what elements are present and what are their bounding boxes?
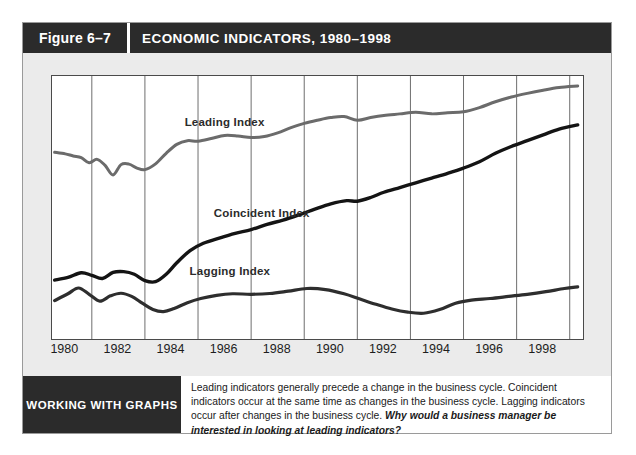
working-with-graphs-tag: WORKING WITH GRAPHS bbox=[23, 376, 181, 433]
series-line-leading-index bbox=[55, 86, 578, 175]
plot-frame: Leading Index Coincident Index Lagging I… bbox=[51, 75, 584, 340]
chart-region: Leading Index Coincident Index Lagging I… bbox=[23, 53, 613, 378]
series-line-coincident-index bbox=[55, 125, 578, 282]
caption-paragraph: Leading indicators generally precede a c… bbox=[191, 381, 601, 438]
series-label-leading-index: Leading Index bbox=[185, 116, 265, 128]
x-tick-label-1996: 1996 bbox=[475, 342, 503, 356]
x-tick-label-1988: 1988 bbox=[263, 342, 291, 356]
x-tick-label-1994: 1994 bbox=[422, 342, 450, 356]
x-tick-label-1998: 1998 bbox=[528, 342, 556, 356]
x-axis-tick-labels: 1980198219841986198819901992199419961998 bbox=[51, 342, 584, 366]
series-label-lagging-index: Lagging Index bbox=[190, 265, 271, 277]
caption-block: Leading indicators generally precede a c… bbox=[181, 376, 611, 433]
figure-header: Figure 6–7 ECONOMIC INDICATORS, 1980–199… bbox=[23, 23, 611, 53]
figure-number-label: Figure 6–7 bbox=[23, 23, 127, 53]
x-tick-label-1980: 1980 bbox=[50, 342, 78, 356]
figure-panel: Figure 6–7 ECONOMIC INDICATORS, 1980–199… bbox=[22, 22, 612, 434]
line-chart-plot bbox=[52, 76, 583, 339]
x-tick-label-1986: 1986 bbox=[210, 342, 238, 356]
figure-title: ECONOMIC INDICATORS, 1980–1998 bbox=[130, 23, 391, 53]
series-label-coincident-index: Coincident Index bbox=[214, 207, 310, 219]
figure-screenshot: Figure 6–7 ECONOMIC INDICATORS, 1980–199… bbox=[0, 0, 636, 455]
figure-footer: WORKING WITH GRAPHS Leading indicators g… bbox=[23, 376, 611, 433]
x-tick-label-1990: 1990 bbox=[316, 342, 344, 356]
x-tick-label-1992: 1992 bbox=[369, 342, 397, 356]
series-line-lagging-index bbox=[55, 287, 578, 313]
x-tick-label-1982: 1982 bbox=[103, 342, 131, 356]
x-tick-label-1984: 1984 bbox=[157, 342, 185, 356]
